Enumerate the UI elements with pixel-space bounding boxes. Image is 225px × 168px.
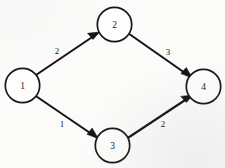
- node-2[interactable]: 2: [97, 7, 131, 41]
- node-4-label: 4: [201, 82, 206, 92]
- arrowhead-1-3: [87, 128, 98, 138]
- node-1-label: 1: [20, 81, 25, 91]
- edge-weight-3-4: 2: [161, 119, 166, 129]
- edge-line-3-4: [129, 97, 191, 138]
- edge-1-to-3[interactable]: 1: [37, 97, 99, 139]
- graph-svg: 2 3 1 2 1 2 3: [0, 0, 225, 168]
- edge-line-1-2: [36, 34, 98, 76]
- graph-diagram-canvas: 2 3 1 2 1 2 3: [0, 0, 225, 168]
- edge-1-to-2[interactable]: 2: [36, 32, 100, 75]
- node-4[interactable]: 4: [186, 69, 220, 103]
- edge-line-2-4: [130, 35, 190, 77]
- edge-weight-2-4: 3: [166, 47, 171, 57]
- node-3[interactable]: 3: [95, 128, 129, 162]
- edge-weight-1-3: 1: [60, 119, 65, 129]
- node-3-label: 3: [110, 141, 115, 151]
- edge-3-to-4[interactable]: 2: [129, 95, 193, 138]
- edge-line-1-3: [37, 97, 97, 138]
- node-2-label: 2: [112, 20, 117, 30]
- edge-weight-1-2: 2: [55, 46, 60, 56]
- edge-2-to-4[interactable]: 3: [130, 35, 192, 79]
- node-1[interactable]: 1: [5, 68, 39, 102]
